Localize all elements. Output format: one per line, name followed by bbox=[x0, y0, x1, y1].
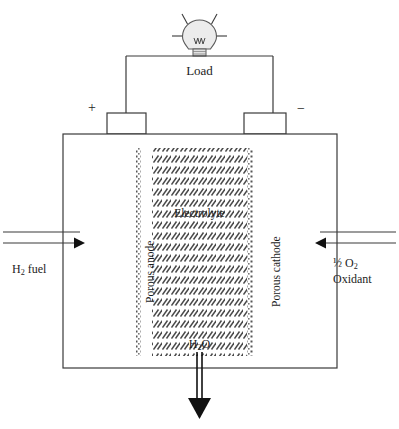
light-bulb-icon bbox=[172, 14, 227, 56]
water-label-tail: O bbox=[202, 337, 211, 351]
electrolyte-region bbox=[152, 148, 248, 356]
oxidant-amount: ½ O2 bbox=[333, 256, 372, 272]
fuel-cell-diagram: Load + − Electrolyte H2O H2 fuel ½ O2 Ox… bbox=[0, 0, 399, 429]
fuel-label-base: H bbox=[12, 262, 21, 276]
negative-terminal-sign: − bbox=[297, 102, 305, 116]
load-label: Load bbox=[0, 64, 399, 77]
anode-terminal-block bbox=[107, 113, 146, 134]
oxidant-inlet-label: ½ O2 Oxidant bbox=[333, 256, 372, 287]
oxidant-amount-subscript: 2 bbox=[354, 262, 358, 271]
positive-terminal-sign: + bbox=[88, 101, 96, 115]
water-product-label: H2O bbox=[0, 338, 399, 352]
porous-anode-band bbox=[136, 148, 141, 356]
porous-cathode-label: Porous cathode bbox=[270, 236, 282, 307]
cathode-terminal-block bbox=[244, 113, 286, 134]
oxidant-amount-prefix: ½ O bbox=[333, 256, 354, 270]
porous-cathode-band bbox=[247, 148, 253, 356]
electrolyte-label: Electrolyte bbox=[0, 208, 399, 220]
porous-anode-label: Porous anode bbox=[144, 241, 156, 303]
fuel-inlet-label: H2 fuel bbox=[12, 263, 46, 277]
oxidant-name: Oxidant bbox=[333, 272, 372, 287]
fuel-label-tail: fuel bbox=[25, 262, 47, 276]
